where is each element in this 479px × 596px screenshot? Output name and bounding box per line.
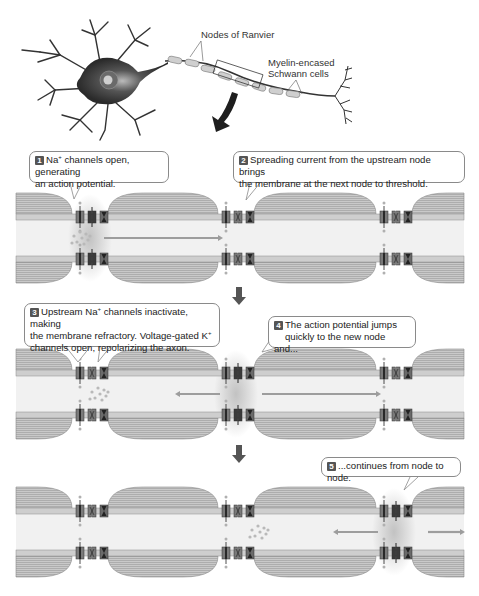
ion-dot [383, 400, 386, 403]
ion-dot [225, 244, 228, 247]
ion-dot [383, 244, 386, 247]
myelin-sheath [412, 193, 464, 214]
step-badge-1: 1 [35, 156, 44, 165]
na-channel-subunit [93, 367, 96, 379]
na-ion [96, 386, 99, 389]
na-channel-subunit [234, 505, 237, 517]
myelin-sheath [254, 418, 376, 439]
sequence-arrow-icon [232, 445, 246, 463]
ion-dot [79, 202, 82, 205]
ion-dot [225, 400, 228, 403]
na-channel-subunit [93, 547, 96, 559]
na-channel-subunit [93, 505, 96, 517]
na-channel-subunit [392, 409, 395, 421]
ion-dot [383, 428, 386, 431]
na-ion [72, 234, 75, 237]
ion-dot [225, 272, 228, 275]
na-channel-subunit [239, 547, 242, 559]
na-channel-subunit [88, 367, 91, 379]
na-ion [264, 532, 267, 535]
dendrite [50, 40, 60, 55]
dendrite [45, 80, 55, 90]
na-ion [98, 392, 101, 395]
na-ion [82, 242, 85, 245]
step-badge-3: 3 [30, 308, 39, 317]
na-channel-subunit [392, 253, 395, 265]
sequence-arrow-icon [232, 287, 246, 305]
na-ion [253, 534, 256, 537]
na-ion [260, 536, 263, 539]
myelin-sheath [108, 556, 218, 577]
myelin-segment [185, 59, 200, 68]
ion-dot [383, 272, 386, 275]
dendrite [128, 25, 135, 40]
na-channel-subunit [239, 253, 242, 265]
na-ion [93, 396, 96, 399]
na-ion [88, 234, 91, 237]
na-channel-subunit [239, 505, 242, 517]
step-badge-2: 2 [239, 156, 248, 165]
na-ion [266, 528, 269, 531]
na-channel-subunit [93, 409, 96, 421]
na-channel-subunit [88, 505, 91, 517]
callout-step-4: 4The action potential jumps quickly to t… [268, 316, 416, 348]
myelin-sheath [16, 487, 72, 508]
na-ion [258, 530, 261, 533]
na-channel-subunit [392, 505, 395, 517]
myelin-sheath [16, 193, 72, 214]
myelin-sheath [108, 487, 218, 508]
myelin-sheath [254, 262, 376, 283]
na-ion [256, 524, 259, 527]
na-channel-subunit [234, 547, 237, 559]
ion-dot [225, 524, 228, 527]
axon-terminal [345, 68, 352, 70]
dendrite [22, 50, 40, 52]
myelin-sheath [412, 262, 464, 283]
callout-step-3: 3Upstream Na+ channels inactivate, makin… [24, 303, 220, 347]
action-potential-glow [372, 488, 416, 576]
myelin-sheath [254, 193, 376, 214]
myelin-sheath [254, 349, 376, 370]
panel-1 [16, 193, 464, 283]
axon-terminal [346, 118, 352, 122]
axon-terminal [340, 86, 350, 88]
step-badge-5: 5 [327, 462, 336, 471]
na-channel-subunit [88, 409, 91, 421]
na-channel-subunit [392, 367, 395, 379]
label-myelin-line1: Myelin-encased [268, 57, 335, 68]
ion-dot [225, 230, 228, 233]
dendrite [135, 40, 148, 46]
myelin-sheath [412, 418, 464, 439]
dendrite [135, 120, 140, 135]
ion-dot [225, 496, 228, 499]
myelin-sheath [16, 262, 72, 283]
axon-terminal [340, 100, 350, 104]
na-channel-subunit [392, 211, 395, 223]
ion-dot [79, 272, 82, 275]
na-channel-subunit [239, 211, 242, 223]
dendrite [115, 102, 155, 120]
ion-dot [383, 496, 386, 499]
na-ion [106, 390, 109, 393]
myelin-segment [168, 56, 183, 65]
na-ion [90, 390, 93, 393]
action-potential-glow [214, 350, 258, 438]
ion-dot [79, 524, 82, 527]
na-ion [75, 240, 78, 243]
na-ion [262, 526, 265, 529]
na-ion [80, 236, 83, 239]
na-channel-subunit [88, 547, 91, 559]
callout-step-5: 5...continues from node to node. [321, 457, 461, 477]
na-channel-subunit [93, 253, 96, 265]
ion-dot [79, 244, 82, 247]
diagram-canvas [0, 0, 479, 596]
panel-2 [16, 349, 464, 439]
na-ion [100, 398, 103, 401]
na-channel-subunit [88, 211, 91, 223]
callout-step-2: 2Spreading current from the upstream nod… [233, 151, 465, 183]
ion-dot [79, 496, 82, 499]
na-channel-subunit [397, 367, 400, 379]
na-channel-subunit [239, 409, 242, 421]
na-ion [78, 230, 81, 233]
neuron-illustration [22, 20, 352, 140]
